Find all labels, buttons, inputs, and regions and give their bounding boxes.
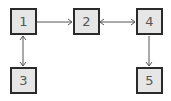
node-5: 5 xyxy=(136,67,163,94)
node-label: 3 xyxy=(19,73,27,88)
node-3: 3 xyxy=(10,67,37,94)
node-label: 2 xyxy=(82,14,90,29)
node-1: 1 xyxy=(10,8,37,35)
node-4: 4 xyxy=(136,8,163,35)
node-label: 4 xyxy=(145,14,153,29)
node-2: 2 xyxy=(73,8,100,35)
node-label: 1 xyxy=(19,14,27,29)
node-label: 5 xyxy=(145,73,153,88)
